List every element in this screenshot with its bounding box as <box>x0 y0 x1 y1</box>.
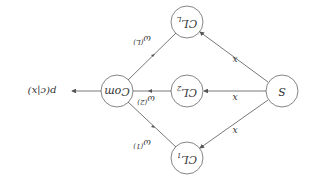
output-label: p(c|x) <box>28 86 57 96</box>
arrowhead-cl2-com <box>148 89 152 93</box>
edge-label-x-1: x <box>232 126 237 135</box>
combiner-label: Com <box>104 86 129 97</box>
ensemble-diagram: S CL1 CL2 CLL Com x x x ω(1) ω(2) ω(L) p… <box>0 0 314 180</box>
source-label: S <box>278 86 286 97</box>
edge-s-cl1 <box>200 100 268 148</box>
edge-label-x-L: x <box>232 55 237 64</box>
weight-label-L: ω(L) <box>133 34 150 45</box>
weight-label-2: ω(2) <box>137 94 154 105</box>
weight-label-1: ω(1) <box>133 138 150 149</box>
classifier-2-label: CL2 <box>177 84 197 98</box>
classifier-1-label: CL1 <box>177 151 197 165</box>
classifier-L-label: CLL <box>177 15 197 29</box>
edge-label-x-2: x <box>232 93 237 102</box>
